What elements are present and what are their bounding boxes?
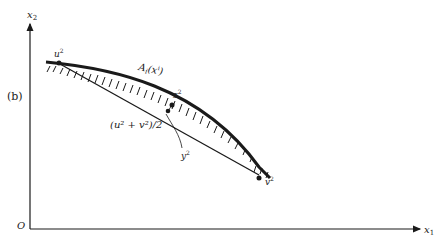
x-axis-label: x1 (424, 224, 434, 237)
point-v (257, 176, 262, 181)
convexity-diagram: x2 x1 O (b) (0, 0, 438, 237)
label-y: y2 (180, 149, 190, 161)
point-u (57, 61, 62, 66)
label-curve: Ai(xi) (136, 60, 164, 79)
label-u: u2 (54, 47, 64, 59)
label-midpoint: (u² + v²)/2 (110, 119, 162, 130)
label-v: v2 (265, 175, 274, 187)
y-axis-label: x2 (27, 9, 37, 22)
panel-label: (b) (7, 90, 23, 103)
axes (30, 24, 420, 229)
origin-label: O (17, 220, 25, 231)
